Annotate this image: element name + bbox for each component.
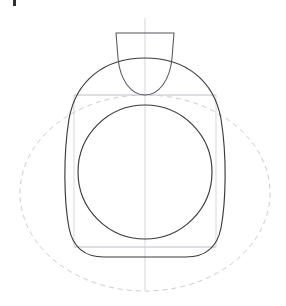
drawing-canvas xyxy=(0,0,286,306)
geometric-construction-drawing xyxy=(0,0,286,306)
